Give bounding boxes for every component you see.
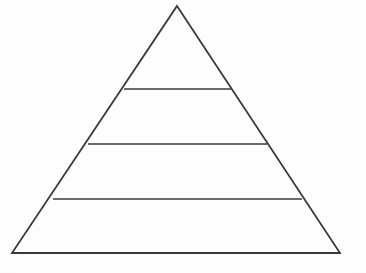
pyramid-tier-4-base xyxy=(12,199,340,253)
pyramid-tier-2-upper-middle xyxy=(85,89,268,144)
figure-canvas xyxy=(0,0,366,273)
pyramid-diagram xyxy=(0,0,366,273)
pyramid-tier-1-top xyxy=(122,6,232,89)
pyramid-tier-3-lower-middle xyxy=(48,144,304,199)
